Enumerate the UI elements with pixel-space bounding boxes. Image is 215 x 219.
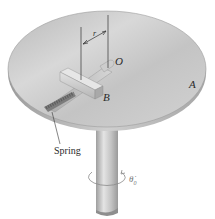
label-radius-r: r: [93, 30, 96, 38]
diagram-canvas: O B A r Spring θ̇0: [0, 0, 215, 219]
disk-mechanism-figure: [0, 0, 215, 219]
shaft: [96, 128, 118, 216]
label-spring: Spring: [54, 146, 81, 156]
theta-subscript: 0: [133, 180, 136, 186]
label-angular-velocity: θ̇0: [129, 175, 136, 186]
label-slider-b: B: [103, 92, 110, 103]
label-center-o: O: [115, 56, 123, 67]
label-disk-a: A: [189, 79, 196, 90]
